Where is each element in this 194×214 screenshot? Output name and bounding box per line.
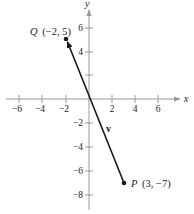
point-q-coords: (−2, 5) <box>42 26 71 38</box>
vector-v <box>68 42 125 183</box>
x-tick-label: −2 <box>59 104 69 114</box>
point-q-dot <box>64 37 69 42</box>
point-p-name: P <box>130 178 138 189</box>
y-tick-label: 4 <box>78 47 83 57</box>
y-tick-labels: 6 4 −2 −4 −6 −8 <box>73 23 83 200</box>
coordinate-plane: x y −6 −4 −2 2 4 6 6 4 −2 −4 −6 −8 v <box>0 0 194 214</box>
point-p-label: P (3, −7) <box>130 178 171 190</box>
x-tick-label: 2 <box>110 104 115 114</box>
x-tick-label: 4 <box>133 104 138 114</box>
point-p-dot <box>122 181 127 186</box>
x-tick-labels: −6 −4 −2 2 4 6 <box>12 104 161 114</box>
y-tick-label: −4 <box>73 142 83 152</box>
y-tick-label: −6 <box>73 166 83 176</box>
x-axis-label: x <box>183 93 189 104</box>
y-tick-label: −8 <box>73 190 83 200</box>
x-tick-label: 6 <box>156 104 161 114</box>
point-q-label: Q (−2, 5) <box>30 26 71 38</box>
point-p-coords: (3, −7) <box>142 178 171 190</box>
vector-label: v <box>106 123 111 134</box>
x-tick-label: −4 <box>35 104 45 114</box>
y-axis-label: y <box>84 0 90 9</box>
y-tick-label: −2 <box>73 118 83 128</box>
point-q-name: Q <box>30 26 38 37</box>
y-tick-label: 6 <box>78 23 83 33</box>
x-tick-label: −6 <box>12 104 22 114</box>
